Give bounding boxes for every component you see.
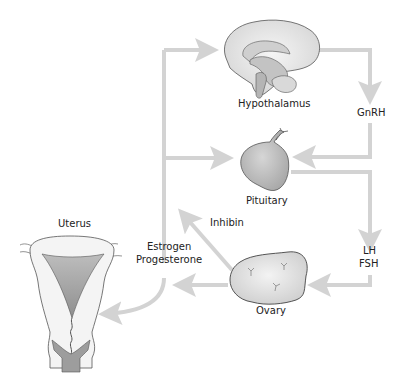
gnrh-label: GnRH xyxy=(357,106,386,119)
ovary-label: Ovary xyxy=(256,304,286,317)
brain-illustration xyxy=(224,20,319,98)
pituitary-label: Pituitary xyxy=(246,194,288,207)
estrogen-label: Estrogen xyxy=(147,240,191,253)
uterus-illustration xyxy=(20,236,122,372)
progesterone-label: Progesterone xyxy=(136,253,202,266)
ovary-illustration xyxy=(230,252,307,304)
lh-label: LH xyxy=(363,244,376,257)
pituitary-illustration xyxy=(241,128,289,191)
gnrh-arrow-to-pituitary xyxy=(298,123,370,157)
estrogen-arrow-to-uterus xyxy=(104,278,164,314)
uterus-label: Uterus xyxy=(58,217,91,230)
gnrh-arrow-down xyxy=(317,50,370,99)
hypothalamus-label: Hypothalamus xyxy=(238,97,311,110)
inhibin-label: Inhibin xyxy=(210,216,244,229)
fsh-label: FSH xyxy=(359,257,378,270)
lhfsh-arrow-to-ovary xyxy=(313,275,370,285)
hpo-axis-diagram xyxy=(0,0,402,392)
lhfsh-arrow-down xyxy=(291,172,370,247)
